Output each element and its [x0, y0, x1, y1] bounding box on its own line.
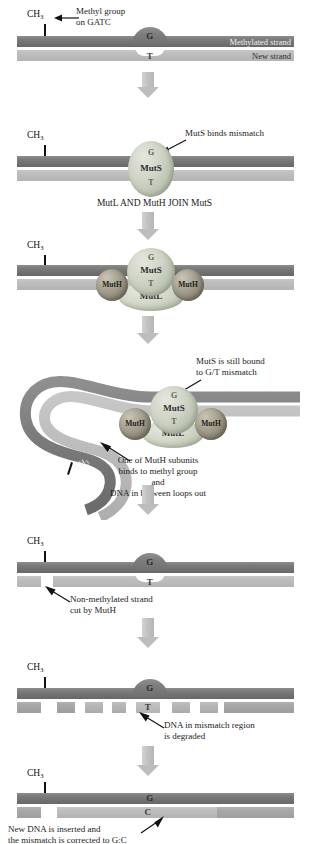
methyl-label-1: CH3 [27, 9, 43, 19]
muth-right-label-3: MutH [172, 281, 204, 289]
base-g-2: G [128, 149, 174, 157]
new-strand-frag-2 [57, 702, 75, 713]
protein-muth-right-3: MutH [172, 269, 204, 301]
degradation-arrow [137, 712, 165, 730]
process-arrow-4 [137, 485, 159, 515]
new-strand-frag-6 [172, 702, 190, 713]
methyl-label-7: CH3 [27, 768, 43, 778]
base-t-5: T [135, 578, 165, 587]
methyl-label-3: CH3 [27, 240, 43, 250]
base-t-1: T [135, 52, 165, 61]
methyl-group-arrow [54, 14, 80, 24]
base-g-7: G [132, 794, 168, 803]
methyl-tick-5 [44, 551, 46, 562]
methyl-label-2: CH3 [27, 130, 43, 140]
base-g-5: G [132, 558, 168, 567]
methyl-tick-7 [44, 782, 46, 793]
protein-muts-4: G MutS T [150, 386, 198, 434]
base-g-6: G [132, 684, 168, 693]
methyl-tick-1 [44, 24, 46, 36]
panel-1: CH3 Methyl group on GATC G T Methylated … [0, 0, 309, 96]
new-strand-frag-7 [200, 702, 218, 713]
repair-complete-arrow [140, 816, 166, 834]
new-strand-5a [17, 576, 41, 587]
process-arrow-5b [137, 618, 159, 648]
protein-muts-3: G MutS T [127, 248, 175, 296]
muth-left-label-4: MutH [119, 420, 151, 428]
process-arrow-1 [137, 72, 159, 98]
degradation-annotation: DNA in mismatch region is degraded [164, 720, 255, 742]
protein-muth-left-4: MutH [119, 408, 151, 440]
muts-binds-annotation: MutS binds mismatch [185, 128, 264, 139]
base-t-4: T [150, 418, 198, 426]
base-t-3: T [127, 280, 175, 288]
mutl-muth-join-text: MutL AND MutH JOIN MutS [0, 198, 309, 209]
new-strand-7a [17, 807, 41, 818]
panel-3: CH3 MutL G MutS T MutH MutH [0, 236, 309, 332]
new-strand-7c [217, 807, 294, 818]
panel-2: CH3 MutS binds mismatch G MutS T [0, 108, 309, 188]
strand-cut-annotation: Non-methylated strand cut by MutH [70, 594, 153, 616]
muth-left-label-3: MutH [96, 281, 128, 289]
panel-6: CH3 G T DNA in mismatch region is degrad… [0, 654, 309, 764]
diagram-canvas: CH3 Methyl group on GATC G T Methylated … [0, 0, 309, 844]
methyl-group-annotation: Methyl group on GATC [76, 6, 125, 28]
panel-5: CH3 G T Non-methylated strand cut by Mut… [0, 526, 309, 626]
base-g-3: G [127, 254, 175, 262]
new-strand-frag-4 [112, 702, 126, 713]
panel-4: MutS is still bound to G/T mismatch [0, 340, 309, 520]
methyl-tick-6 [44, 677, 46, 688]
new-strand-frag-1 [17, 702, 41, 713]
methyl-label-6: CH3 [27, 662, 43, 672]
new-strand-frag-8 [224, 702, 294, 713]
methylated-strand-label: Methylated strand [190, 37, 291, 48]
new-strand-label: New strand [190, 51, 291, 62]
muth-methyl-arrow [97, 442, 131, 462]
base-g-1: G [132, 32, 168, 41]
base-g-4: G [150, 392, 198, 400]
protein-muth-right-4: MutH [195, 408, 227, 440]
base-t-2: T [128, 179, 174, 187]
strand-cut-arrow [43, 586, 71, 604]
methyl-tick-2 [44, 145, 46, 156]
muth-right-label-4: MutH [195, 420, 227, 428]
muts-label-4: MutS [150, 404, 198, 413]
panel-7: CH3 G C New DNA is inserted and the mism… [0, 768, 309, 844]
muts-label-2: MutS [128, 164, 174, 173]
new-strand-frag-3 [85, 702, 103, 713]
muts-label-3: MutS [127, 266, 175, 275]
methyl-label-5: CH3 [27, 536, 43, 546]
protein-muts-2: G MutS T [128, 141, 174, 197]
protein-muth-left-3: MutH [96, 269, 128, 301]
new-strand-5b [53, 576, 294, 587]
base-t-6: T [136, 703, 160, 712]
repair-complete-annotation: New DNA is inserted and the mismatch is … [8, 824, 127, 844]
